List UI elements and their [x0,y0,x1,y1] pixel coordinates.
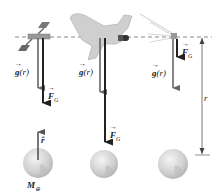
earth-2-icon [90,150,118,178]
satellite-fg-label: FG [48,92,58,103]
earth-mass-label: M⊕ [27,181,40,192]
shuttle-fg-label: FG [110,131,120,142]
diagram-canvas [0,0,220,195]
object-g-label: g(r) [152,69,166,78]
satellite-g-label: g(r) [15,68,29,77]
distance-r-label: r [204,94,208,103]
earth-3-icon [158,149,188,179]
object-fg-label: FG [182,48,192,59]
shuttle-g-label: g(r) [79,68,93,77]
r-hat-label: r̂ [41,136,45,145]
small-object-icon [140,14,177,42]
